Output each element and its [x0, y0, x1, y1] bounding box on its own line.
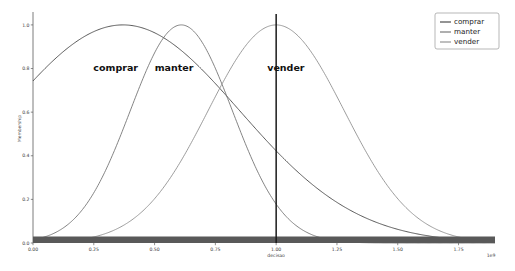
- y-tick-label: 0.6: [22, 110, 29, 115]
- x-axis-label: decisao: [267, 253, 285, 258]
- x-tick-label: 1.00: [271, 247, 281, 252]
- y-tick-label: 0.2: [22, 197, 29, 202]
- x-tick-label: 0.00: [28, 247, 38, 252]
- x-tick-label: 1.50: [393, 247, 403, 252]
- legend-items: comprarmantervender: [440, 17, 484, 46]
- legend: comprarmantervender: [435, 13, 499, 49]
- legend-label-vender: vender: [454, 37, 479, 46]
- legend-label-comprar: comprar: [454, 17, 484, 26]
- x-tick-label: 0.75: [210, 247, 220, 252]
- y-tick-label: 0.8: [22, 66, 29, 71]
- x-axis-offset-label: 1e9: [487, 253, 496, 258]
- chart-container: 0.00.20.40.60.81.0 Membership 0.000.250.…: [0, 0, 515, 271]
- x-tick-label: 0.25: [89, 247, 99, 252]
- y-tick-label: 0.4: [22, 153, 29, 158]
- y-tick-label: 0.0: [22, 241, 29, 246]
- legend-label-manter: manter: [454, 27, 480, 36]
- baseline-band: [33, 237, 495, 244]
- annotation-comprar: comprar: [93, 62, 138, 73]
- x-tick-label: 1.75: [453, 247, 463, 252]
- x-tick-label: 1.25: [332, 247, 342, 252]
- annotation-vender: vender: [267, 62, 305, 73]
- annotation-manter: manter: [155, 62, 194, 73]
- membership-chart: 0.00.20.40.60.81.0 Membership 0.000.250.…: [0, 0, 515, 271]
- x-tick-label: 0.50: [149, 247, 159, 252]
- y-axis-label: Membership: [17, 115, 22, 142]
- y-tick-label: 1.0: [22, 23, 29, 28]
